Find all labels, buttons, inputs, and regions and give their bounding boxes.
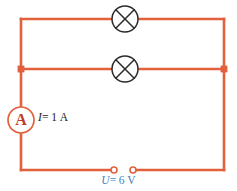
current-unit: A — [60, 111, 69, 123]
voltage-symbol: U — [101, 174, 110, 186]
current-equals: = — [42, 111, 49, 123]
voltage-value: 6 — [119, 174, 125, 186]
circuit-schematic-canvas: A — [0, 0, 237, 191]
current-value: 1 — [51, 111, 57, 123]
junction-node-left — [18, 66, 25, 73]
voltage-source-terminals — [111, 167, 136, 173]
current-label: I= 1 A — [38, 111, 68, 123]
ammeter: A — [8, 107, 34, 133]
junction-node-right — [221, 66, 228, 73]
ammeter-symbol-letter: A — [15, 111, 27, 128]
terminal-left-icon — [111, 167, 117, 173]
lamp-middle — [112, 56, 138, 82]
terminal-right-icon — [130, 167, 136, 173]
circuit-diagram: A I= 1 A U= 6 V — [0, 0, 237, 191]
lamp-top — [112, 6, 138, 32]
voltage-unit: V — [127, 174, 136, 186]
voltage-label: U= 6 V — [0, 174, 237, 186]
voltage-equals: = — [110, 174, 117, 186]
